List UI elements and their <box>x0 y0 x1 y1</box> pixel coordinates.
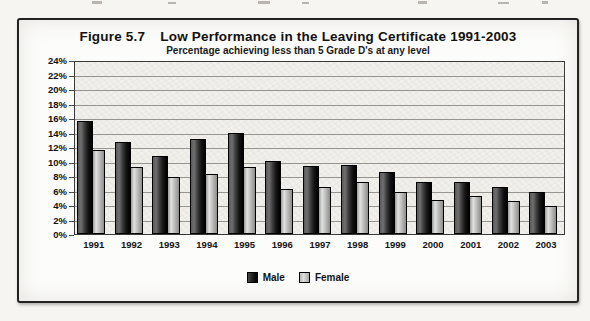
x-axis-label-1999: 1999 <box>377 239 415 251</box>
x-axis-label-2001: 2001 <box>452 239 490 251</box>
bar-female-1991 <box>92 150 105 234</box>
y-axis-label-4: 4% <box>29 201 67 211</box>
bar-group-2000 <box>414 62 452 234</box>
legend-swatch-female <box>299 272 310 283</box>
bar-female-1993 <box>167 177 180 234</box>
bar-female-2002 <box>507 201 520 234</box>
bar-group-2001 <box>452 62 490 234</box>
bar-groups <box>75 62 565 234</box>
bar-male-2001 <box>454 182 470 234</box>
bar-male-1995 <box>228 133 244 234</box>
y-axis-label-24: 24% <box>29 56 67 66</box>
bar-group-1999 <box>377 62 415 234</box>
y-axis-label-22: 22% <box>29 71 67 81</box>
y-axis-label-18: 18% <box>29 100 67 110</box>
bar-male-2000 <box>416 182 432 234</box>
y-tick-4 <box>69 206 74 207</box>
x-axis-label-1997: 1997 <box>301 239 339 251</box>
y-axis-label-2: 2% <box>29 216 67 226</box>
y-axis-label-8: 8% <box>29 172 67 182</box>
x-axis-label-1994: 1994 <box>188 239 226 251</box>
bar-group-2002 <box>490 62 528 234</box>
bar-group-1992 <box>113 62 151 234</box>
bar-female-1996 <box>280 189 293 234</box>
cropped-text-artifact <box>0 0 590 6</box>
legend-item-female: Female <box>299 272 349 283</box>
x-axis-label-2000: 2000 <box>414 239 452 251</box>
y-tick-12 <box>69 148 74 149</box>
bar-male-1994 <box>190 139 206 234</box>
x-axis: 1991199219931994199519961997199819992000… <box>75 239 565 251</box>
y-axis-label-0: 0% <box>29 230 67 240</box>
legend-swatch-male <box>247 272 258 283</box>
bar-male-1991 <box>77 121 93 234</box>
bar-female-2003 <box>544 206 557 234</box>
bar-group-1993 <box>150 62 188 234</box>
document-page: Figure 5.7 Low Performance in the Leavin… <box>0 0 590 321</box>
bar-female-2000 <box>431 200 444 234</box>
bar-male-1997 <box>303 166 319 234</box>
x-axis-label-1991: 1991 <box>75 239 113 251</box>
bar-group-1994 <box>188 62 226 234</box>
x-axis-label-2002: 2002 <box>490 239 528 251</box>
bar-male-2003 <box>529 192 545 234</box>
bar-male-1996 <box>265 161 281 234</box>
bar-female-1999 <box>394 192 407 234</box>
y-axis-label-16: 16% <box>29 114 67 124</box>
y-tick-0 <box>69 235 74 236</box>
bar-group-1998 <box>339 62 377 234</box>
bar-female-1995 <box>243 167 256 234</box>
bar-male-1992 <box>115 142 131 234</box>
bar-group-1995 <box>226 62 264 234</box>
bar-male-2002 <box>492 187 508 234</box>
y-axis-label-10: 10% <box>29 158 67 168</box>
y-axis-label-6: 6% <box>29 187 67 197</box>
y-axis-label-14: 14% <box>29 129 67 139</box>
x-axis-label-1995: 1995 <box>226 239 264 251</box>
chart-legend: MaleFemale <box>19 272 577 283</box>
bar-group-1996 <box>263 62 301 234</box>
y-tick-24 <box>69 61 74 62</box>
bar-male-1993 <box>152 156 168 234</box>
x-axis-label-1998: 1998 <box>339 239 377 251</box>
bar-chart: 24%22%20%18%16%14%12%10%8%6%4%2%0% 19911… <box>19 20 577 301</box>
y-tick-10 <box>69 163 74 164</box>
bar-female-1998 <box>356 182 369 234</box>
x-axis-label-1996: 1996 <box>263 239 301 251</box>
y-axis-label-20: 20% <box>29 85 67 95</box>
bar-group-1991 <box>75 62 113 234</box>
legend-label-male: Male <box>263 272 285 283</box>
bar-male-1998 <box>341 165 357 235</box>
y-tick-16 <box>69 119 74 120</box>
bar-group-2003 <box>527 62 565 234</box>
x-axis-label-2003: 2003 <box>527 239 565 251</box>
bar-female-2001 <box>469 196 482 234</box>
bar-female-1997 <box>318 187 331 234</box>
y-tick-20 <box>69 90 74 91</box>
legend-item-male: Male <box>247 272 285 283</box>
bar-group-1997 <box>301 62 339 234</box>
y-tick-22 <box>69 76 74 77</box>
y-tick-6 <box>69 192 74 193</box>
bar-female-1994 <box>205 174 218 234</box>
figure-card: Figure 5.7 Low Performance in the Leavin… <box>17 18 579 303</box>
y-axis-label-12: 12% <box>29 143 67 153</box>
x-axis-label-1992: 1992 <box>113 239 151 251</box>
y-tick-14 <box>69 134 74 135</box>
y-tick-8 <box>69 177 74 178</box>
y-tick-2 <box>69 221 74 222</box>
legend-label-female: Female <box>315 272 349 283</box>
y-tick-18 <box>69 105 74 106</box>
bar-female-1992 <box>130 167 143 234</box>
bar-male-1999 <box>379 172 395 234</box>
x-axis-label-1993: 1993 <box>150 239 188 251</box>
